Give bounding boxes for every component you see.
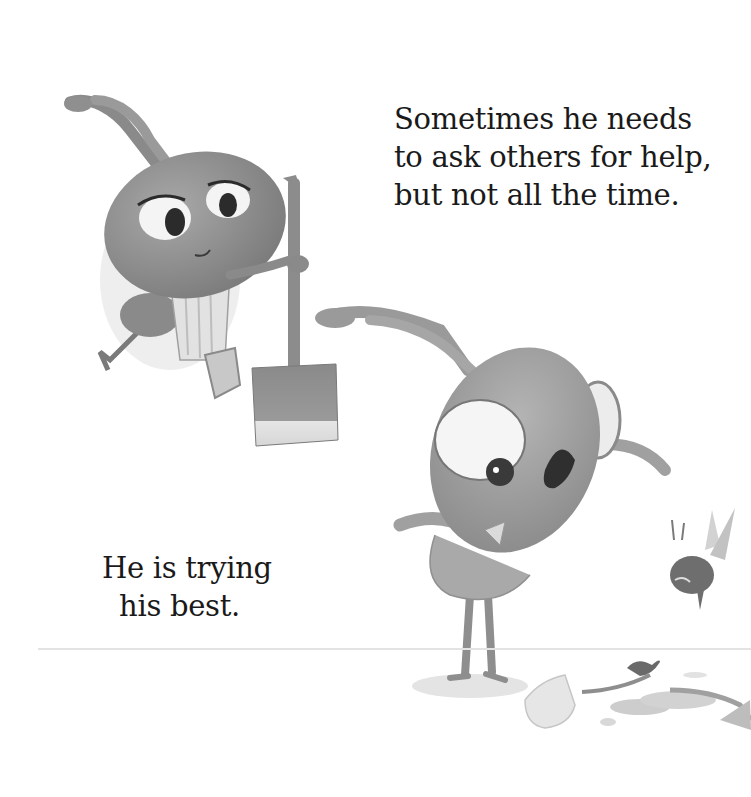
narration-top: Sometimes he needs to ask others for hel…	[394, 100, 711, 214]
narration-line: He is trying	[102, 549, 257, 587]
narration-line: Sometimes he needs	[394, 100, 711, 138]
narration-line: to ask others for help,	[394, 138, 711, 176]
flying-bug-illustration	[670, 508, 735, 610]
horizon-line	[38, 648, 751, 650]
storybook-page: Sometimes he needs to ask others for hel…	[0, 0, 751, 797]
ant-with-broom-illustration	[64, 96, 338, 446]
ground-debris-illustration	[525, 661, 751, 730]
narration-line: his best.	[102, 587, 257, 625]
narration-bottom: He is trying his best.	[102, 549, 257, 625]
narration-line: but not all the time.	[394, 176, 711, 214]
ant-looking-down-illustration	[315, 308, 665, 698]
